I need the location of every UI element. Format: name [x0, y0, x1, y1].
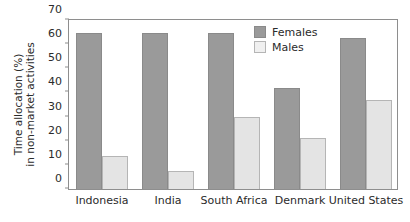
bar-males-denmark: [300, 138, 326, 189]
x-axis-tick-label: India: [155, 189, 182, 206]
y-axis-title: Time allocation (%) in non-market activi…: [8, 19, 40, 190]
bar-males-south-africa: [234, 117, 260, 189]
bar-females-denmark: [274, 88, 300, 189]
legend-label-males: Males: [272, 42, 304, 53]
bar-males-indonesia: [102, 156, 128, 189]
y-axis-tick-label: 10: [48, 148, 69, 159]
y-axis-title-line2: in non-market activities: [24, 42, 36, 166]
x-axis-tick-label: United States: [329, 189, 404, 206]
bar-group: [69, 20, 135, 189]
bar-females-united-states: [340, 38, 366, 189]
y-axis-title-line1: Time allocation (%): [12, 54, 24, 156]
y-axis-tick-label: 70: [48, 4, 69, 15]
legend-item-males: Males: [254, 41, 318, 53]
y-axis-tick-label: 30: [48, 100, 69, 111]
bar-group: [333, 20, 399, 189]
y-axis-tick-label: 60: [48, 28, 69, 39]
x-axis-tick-label: South Africa: [201, 189, 268, 206]
y-axis-tick-label: 20: [48, 124, 69, 135]
bar-females-south-africa: [208, 33, 234, 189]
legend-swatch-males: [254, 41, 266, 53]
y-axis-tick-label: 40: [48, 76, 69, 87]
x-axis-tick-label: Denmark: [275, 189, 326, 206]
x-axis-tick-label: Indonesia: [75, 189, 128, 206]
legend: FemalesMales: [254, 26, 318, 53]
bar-group: [135, 20, 201, 189]
bar-males-united-states: [366, 100, 392, 189]
bar-chart-figure: Time allocation (%) in non-market activi…: [0, 0, 410, 222]
plot-area: 010203040506070IndonesiaIndiaSouth Afric…: [68, 19, 398, 190]
y-axis-tick-label: 50: [48, 52, 69, 63]
y-axis-tick-label: 0: [55, 173, 69, 184]
bar-females-indonesia: [76, 33, 102, 189]
legend-label-females: Females: [272, 27, 318, 38]
plot-inner: 010203040506070IndonesiaIndiaSouth Afric…: [69, 20, 397, 189]
bar-males-india: [168, 171, 194, 189]
bar-females-india: [142, 33, 168, 189]
legend-item-females: Females: [254, 26, 318, 38]
legend-swatch-females: [254, 26, 266, 38]
